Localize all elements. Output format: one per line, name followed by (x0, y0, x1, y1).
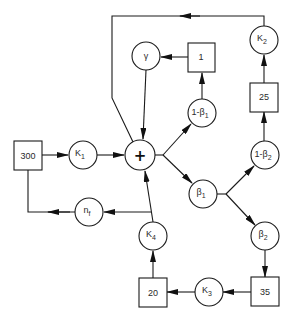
edge-nf-to-300 (28, 170, 75, 212)
svg-text:1: 1 (198, 52, 203, 62)
edge-sum-to-one-minus-beta1 (163, 124, 191, 155)
node-box-1: 1 (188, 43, 215, 72)
flow-diagram: 300 K1 + γ 1 1-β1 β1 1-β2 25 K2 β2 (0, 0, 293, 319)
svg-text:25: 25 (259, 92, 269, 102)
node-beta2: β2 (251, 222, 279, 250)
node-nf: nf (75, 198, 103, 226)
node-beta1: β1 (189, 180, 217, 208)
node-box-20: 20 (139, 278, 167, 307)
edge-beta1-to-beta2 (226, 194, 255, 225)
svg-text:20: 20 (148, 288, 158, 298)
svg-text:300: 300 (20, 151, 35, 161)
edge-beta1-to-one-minus-beta2 (226, 166, 254, 194)
node-one-minus-beta1: 1-β1 (188, 99, 216, 127)
edge-sum-to-beta1 (163, 155, 192, 183)
node-k2: K2 (250, 26, 278, 54)
edge-gamma-to-sum (143, 70, 146, 139)
node-k3: K3 (195, 278, 223, 306)
node-k4: K4 (139, 222, 167, 250)
svg-text:35: 35 (260, 287, 270, 297)
edge-k2-to-sum (112, 16, 264, 142)
node-gamma: γ (132, 42, 160, 70)
node-sum-junction: + (125, 140, 155, 170)
node-one-minus-beta2: 1-β2 (251, 141, 279, 169)
edge-k4-to-sum (145, 171, 153, 222)
node-box-25: 25 (250, 83, 278, 112)
node-box-300: 300 (14, 141, 42, 170)
plus-icon: + (134, 147, 147, 165)
node-box-35: 35 (251, 277, 279, 306)
node-k1: K1 (69, 141, 97, 169)
svg-text:γ: γ (144, 51, 149, 61)
